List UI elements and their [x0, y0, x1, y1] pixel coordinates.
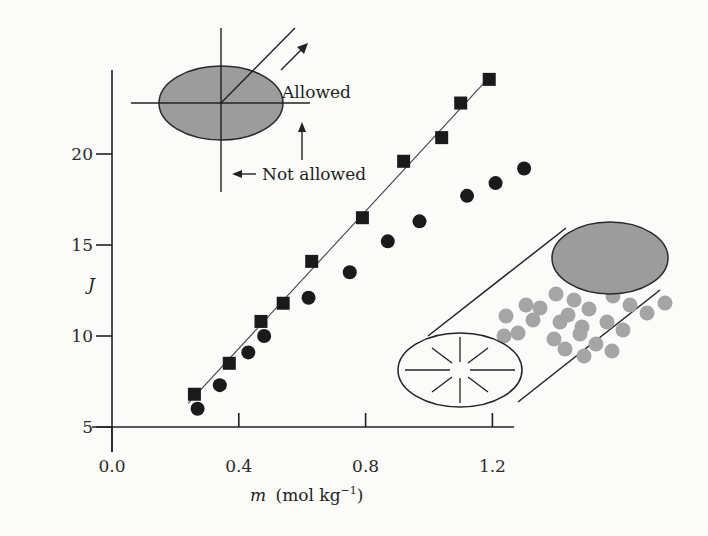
ellipse-orientation-inset: Allowed Not allowed	[131, 28, 366, 192]
square-marker	[188, 388, 201, 401]
sphere	[640, 306, 655, 321]
square-marker	[435, 131, 448, 144]
square-marker	[254, 315, 267, 328]
cylinder-top-edge	[428, 228, 566, 336]
circle-marker	[302, 291, 316, 305]
y-axis-label: J	[85, 274, 96, 294]
circle-marker	[241, 345, 255, 359]
y-tick-label: 5	[82, 417, 93, 437]
circle-marker	[381, 234, 395, 248]
chart: 0.00.40.81.2 5101520 J m (mol kg−1) Allo…	[0, 0, 708, 536]
x-tick-label: 0.8	[352, 456, 379, 476]
circle-marker	[460, 189, 474, 203]
sphere	[549, 287, 564, 302]
square-marker	[305, 255, 318, 268]
x-ticks: 0.00.40.81.2	[98, 413, 505, 476]
square-marker	[277, 297, 290, 310]
y-tick-label: 10	[71, 326, 93, 346]
arrow-up-icon	[298, 122, 306, 160]
circle-marker	[191, 402, 205, 416]
sphere	[526, 313, 541, 328]
sphere	[658, 296, 673, 311]
sphere	[558, 342, 573, 357]
sphere	[519, 298, 534, 313]
sphere	[605, 344, 620, 359]
sphere	[553, 315, 568, 330]
x-axis-label: m (mol kg−1)	[250, 484, 363, 505]
y-tick-label: 20	[71, 144, 93, 164]
square-marker	[483, 73, 496, 86]
circle-marker	[257, 329, 271, 343]
x-tick-label: 0.0	[98, 456, 125, 476]
sphere	[567, 293, 582, 308]
sphere	[616, 323, 631, 338]
arrow-up-right-icon	[281, 43, 308, 70]
cylinder-end-cap-shaded	[552, 222, 668, 294]
sphere	[573, 327, 588, 342]
square-marker	[356, 211, 369, 224]
allowed-label: Allowed	[281, 82, 351, 102]
square-marker	[454, 97, 467, 110]
sphere	[582, 302, 597, 317]
sphere	[499, 309, 514, 324]
circle-marker	[412, 214, 426, 228]
circle-marker	[489, 176, 503, 190]
circle-marker	[517, 162, 531, 176]
sphere	[589, 337, 604, 352]
sphere	[577, 349, 592, 364]
sphere	[511, 326, 526, 341]
square-marker	[223, 357, 236, 370]
y-tick-label: 15	[71, 235, 93, 255]
x-tick-label: 0.4	[225, 456, 252, 476]
rod-micelle-inset	[398, 222, 673, 407]
x-tick-label: 1.2	[479, 456, 506, 476]
sphere	[623, 298, 638, 313]
arrow-left-icon	[232, 170, 256, 178]
sphere	[600, 315, 615, 330]
square-marker	[397, 155, 410, 168]
circle-marker	[213, 378, 227, 392]
circle-marker	[343, 265, 357, 279]
not-allowed-label: Not allowed	[262, 164, 366, 184]
